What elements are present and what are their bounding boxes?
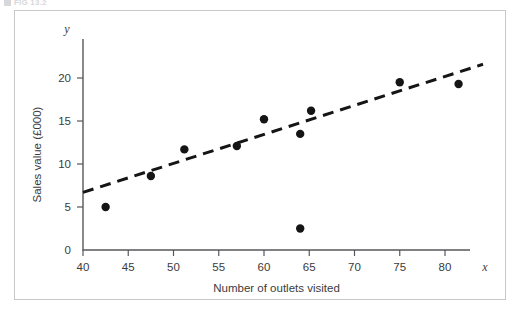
y-tick-label-5: 5 <box>65 201 71 213</box>
data-point-4 <box>260 115 268 123</box>
x-tick-label-60: 60 <box>258 261 271 273</box>
data-point-5 <box>296 130 304 138</box>
caption-square-icon <box>4 0 11 6</box>
data-point-8 <box>396 78 404 86</box>
data-point-3 <box>233 142 241 150</box>
scatter-plot: 40455055606570758005101520xyNumber of ou… <box>15 11 505 299</box>
figure-caption-text: FIG 13.2 <box>14 0 47 7</box>
x-tick-label-65: 65 <box>303 261 316 273</box>
axis-lines <box>83 39 470 250</box>
y-tick-label-20: 20 <box>58 72 71 84</box>
x-tick-label-80: 80 <box>439 261 452 273</box>
y-axis-title: Sales value (£000) <box>31 106 43 202</box>
data-point-2 <box>180 145 188 153</box>
figure-caption: FIG 13.2 <box>4 0 47 7</box>
data-point-0 <box>101 203 109 211</box>
x-axis-title: Number of outlets visited <box>213 282 340 294</box>
x-tick-label-45: 45 <box>122 261 135 273</box>
x-tick-label-55: 55 <box>212 261 225 273</box>
data-point-1 <box>147 172 155 180</box>
x-tick-label-70: 70 <box>348 261 361 273</box>
data-point-7 <box>307 106 315 114</box>
x-axis-symbol: x <box>481 260 488 274</box>
x-tick-label-75: 75 <box>393 261 406 273</box>
trend-line <box>83 64 483 192</box>
y-tick-label-10: 10 <box>58 158 71 170</box>
y-tick-label-15: 15 <box>58 115 71 127</box>
data-point-9 <box>454 80 462 88</box>
y-tick-label-0: 0 <box>65 244 71 256</box>
data-point-6 <box>296 224 304 232</box>
y-axis-symbol: y <box>63 22 70 36</box>
figure-frame: 40455055606570758005101520xyNumber of ou… <box>14 10 506 300</box>
x-tick-label-40: 40 <box>77 261 90 273</box>
x-tick-label-50: 50 <box>167 261 180 273</box>
